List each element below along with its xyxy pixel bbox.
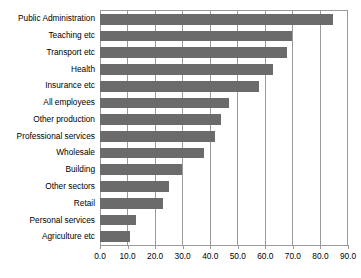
- category-label: Insurance etc: [0, 77, 99, 94]
- bar: [100, 98, 229, 109]
- bar: [100, 215, 136, 226]
- bar-row: [100, 178, 347, 195]
- bar-row: [100, 145, 347, 162]
- tick-mark: [128, 245, 129, 249]
- bar: [100, 181, 169, 192]
- tick-label: 20.0: [147, 251, 163, 261]
- bar-row: [100, 11, 347, 28]
- bar-row: [100, 28, 347, 45]
- bar: [100, 31, 292, 42]
- tick-mark: [155, 245, 156, 249]
- category-label: Professional services: [0, 127, 99, 144]
- category-label: Health: [0, 60, 99, 77]
- bar-row: [100, 228, 347, 245]
- category-axis: Public AdministrationTeaching etcTranspo…: [0, 10, 99, 245]
- bar-row: [100, 95, 347, 112]
- bar: [100, 14, 333, 25]
- category-label: All employees: [0, 94, 99, 111]
- tick-label: 50.0: [230, 251, 246, 261]
- bar: [100, 131, 215, 142]
- bar-row: [100, 212, 347, 229]
- category-label: Transport etc: [0, 44, 99, 61]
- bar-row: [100, 128, 347, 145]
- tick-mark: [265, 245, 266, 249]
- category-label: Public Administration: [0, 10, 99, 27]
- tick-mark: [293, 245, 294, 249]
- plot-area: [100, 10, 348, 245]
- bar-row: [100, 111, 347, 128]
- bar-row: [100, 61, 347, 78]
- bar: [100, 164, 182, 175]
- tick-label: 60.0: [257, 251, 273, 261]
- bar-row: [100, 195, 347, 212]
- value-axis: 0.010.020.030.040.050.060.070.080.090.0: [100, 245, 348, 275]
- category-label: Other production: [0, 111, 99, 128]
- tick-label: 90.0: [340, 251, 356, 261]
- tick-mark: [100, 245, 101, 249]
- bar: [100, 47, 287, 58]
- bar: [100, 148, 204, 159]
- tick-label: 0.0: [94, 251, 106, 261]
- bar: [100, 81, 259, 92]
- category-label: Retail: [0, 195, 99, 212]
- tick-label: 40.0: [202, 251, 218, 261]
- tick-label: 30.0: [175, 251, 191, 261]
- category-label: Teaching etc: [0, 27, 99, 44]
- bar: [100, 231, 130, 242]
- category-label: Personal services: [0, 211, 99, 228]
- tick-label: 70.0: [285, 251, 301, 261]
- gridline: [347, 11, 348, 245]
- bar-series: [100, 11, 347, 245]
- bar: [100, 198, 163, 209]
- tick-mark: [348, 245, 349, 249]
- category-label: Building: [0, 161, 99, 178]
- bar-chart: Public AdministrationTeaching etcTranspo…: [0, 0, 361, 278]
- tick-mark: [210, 245, 211, 249]
- category-label: Agriculture etc: [0, 228, 99, 245]
- tick-label: 10.0: [119, 251, 135, 261]
- tick-mark: [183, 245, 184, 249]
- tick-label: 80.0: [312, 251, 328, 261]
- bar-row: [100, 44, 347, 61]
- category-label: Wholesale: [0, 144, 99, 161]
- bar-row: [100, 161, 347, 178]
- bar: [100, 114, 221, 125]
- tick-mark: [238, 245, 239, 249]
- bar: [100, 64, 273, 75]
- tick-mark: [320, 245, 321, 249]
- bar-row: [100, 78, 347, 95]
- category-label: Other sectors: [0, 178, 99, 195]
